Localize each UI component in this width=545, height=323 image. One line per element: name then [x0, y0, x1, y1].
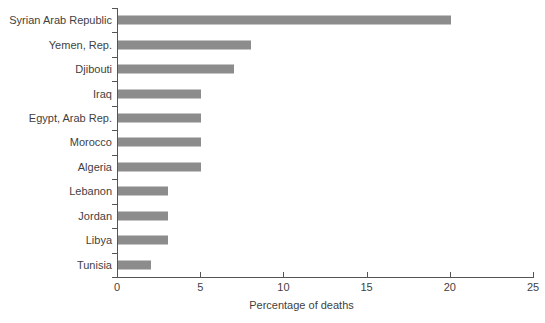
- bar: [118, 65, 234, 74]
- y-axis-tick: [112, 106, 117, 107]
- x-axis-tick-label: 25: [527, 281, 539, 293]
- category-label: Jordan: [78, 209, 112, 222]
- bar-row: Egypt, Arab Rep.: [117, 106, 533, 130]
- x-axis-tick: [117, 272, 118, 278]
- bar: [118, 260, 151, 269]
- bar-row: Tunisia: [117, 253, 533, 277]
- category-label: Algeria: [78, 160, 112, 173]
- y-axis-tick: [112, 57, 117, 58]
- bar: [118, 114, 201, 123]
- x-axis-tick: [283, 272, 284, 278]
- y-axis-tick: [112, 32, 117, 33]
- category-label: Syrian Arab Republic: [9, 14, 112, 27]
- x-axis-tick-label: 5: [197, 281, 203, 293]
- x-axis-tick-label: 20: [444, 281, 456, 293]
- category-label: Yemen, Rep.: [49, 38, 112, 51]
- x-axis-tick-label: 10: [277, 281, 289, 293]
- category-label: Tunisia: [77, 258, 112, 271]
- bar: [118, 211, 168, 220]
- bar-chart: Syrian Arab RepublicYemen, Rep.DjiboutiI…: [0, 0, 545, 323]
- y-axis-tick: [112, 228, 117, 229]
- bar: [118, 16, 451, 25]
- plot-area: Syrian Arab RepublicYemen, Rep.DjiboutiI…: [117, 8, 533, 277]
- y-axis-tick: [112, 179, 117, 180]
- category-label: Djibouti: [75, 63, 112, 76]
- x-axis-tick: [200, 272, 201, 278]
- y-axis-tick: [112, 155, 117, 156]
- bar: [118, 40, 251, 49]
- category-label: Lebanon: [69, 185, 112, 198]
- bar: [118, 162, 201, 171]
- category-label: Morocco: [70, 136, 112, 149]
- bar-row: Jordan: [117, 204, 533, 228]
- bar-row: Lebanon: [117, 179, 533, 203]
- bar: [118, 187, 168, 196]
- x-axis-tick-label: 15: [360, 281, 372, 293]
- x-axis-line: [117, 277, 533, 278]
- x-axis-title-label: Percentage of deaths: [249, 299, 354, 311]
- category-label: Libya: [86, 234, 112, 247]
- y-axis-tick: [112, 253, 117, 254]
- bar: [118, 138, 201, 147]
- y-axis-tick: [112, 130, 117, 131]
- bar-row: Djibouti: [117, 57, 533, 81]
- bar-row: Libya: [117, 228, 533, 252]
- y-axis-tick: [112, 204, 117, 205]
- y-axis-tick: [112, 81, 117, 82]
- bar-row: Yemen, Rep.: [117, 32, 533, 56]
- x-axis-tick: [533, 272, 534, 278]
- bar-row: Iraq: [117, 81, 533, 105]
- category-label: Egypt, Arab Rep.: [29, 112, 112, 125]
- x-axis-tick: [450, 272, 451, 278]
- bar-row: Syrian Arab Republic: [117, 8, 533, 32]
- y-axis-tick: [112, 8, 117, 9]
- x-axis-tick-label: 0: [114, 281, 120, 293]
- bar-row: Morocco: [117, 130, 533, 154]
- category-label: Iraq: [93, 87, 112, 100]
- bar-row: Algeria: [117, 155, 533, 179]
- x-axis-tick: [367, 272, 368, 278]
- x-axis-title: Percentage of deaths: [0, 299, 545, 311]
- bar: [118, 236, 168, 245]
- bar: [118, 89, 201, 98]
